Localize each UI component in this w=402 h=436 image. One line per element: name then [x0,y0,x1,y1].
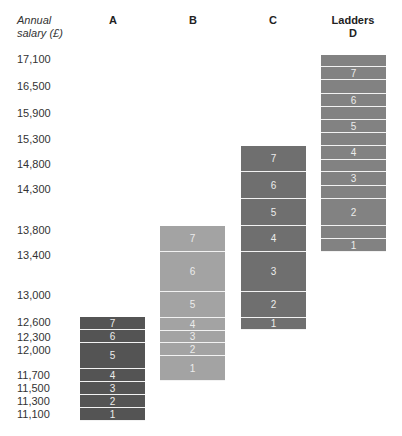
y-tick-label: 11,300 [17,395,50,407]
y-tick-label: 13,400 [17,249,51,261]
y-tick-label: 12,000 [17,344,51,356]
column-header-d: Ladders D [320,14,386,40]
ladder-d-point-intermediate [321,186,386,199]
y-tick-label: 14,800 [17,158,51,170]
ladder-c-point-2: 2 [241,292,306,318]
ladder-d-point-intermediate [321,160,386,172]
ladder-d-point-6: 6 [321,94,386,107]
ladder-c-point-5: 5 [241,199,306,226]
y-tick-label: 12,300 [17,331,51,343]
ladder-c-point-1: 1 [241,318,306,330]
y-tick-label: 12,600 [17,316,51,328]
ladder-d-point-3: 3 [321,172,386,186]
y-tick-label: 14,300 [17,183,51,195]
ladder-b-point-4: 4 [160,318,225,331]
y-tick-label: 17,100 [17,53,51,65]
ladder-a-point-4: 4 [80,369,145,382]
ladder-b: 1234567 [160,226,225,381]
ladder-a-point-1: 1 [80,408,145,421]
ladder-b-point-3: 3 [160,331,225,343]
column-header-b: B [160,14,226,27]
ladder-b-point-5: 5 [160,292,225,318]
ladder-c-point-7: 7 [241,146,306,172]
ladder-b-point-2: 2 [160,343,225,356]
y-tick-label: 13,000 [17,289,51,301]
y-tick-label: 11,100 [17,408,50,420]
ladder-d-point-intermediate [321,133,386,146]
ladder-d-point-4: 4 [321,146,386,160]
column-header-d-title: Ladders [320,14,386,27]
axis-title-line2: salary (£) [17,27,63,40]
ladder-d-point-5: 5 [321,120,386,133]
ladder-b-point-7: 7 [160,226,225,252]
ladder-a-point-2: 2 [80,395,145,408]
ladder-d-point-intermediate [321,80,386,94]
column-header-a-label: A [80,14,146,27]
y-tick-label: 15,900 [17,107,51,119]
column-header-b-label: B [160,14,226,27]
ladder-a-point-7: 7 [80,317,145,330]
column-header-d-label: D [320,27,386,40]
ladder-c: 1234567 [241,146,306,330]
ladder-d-point-7: 7 [321,67,386,80]
ladder-a: 1234567 [80,317,145,421]
ladder-c-point-4: 4 [241,226,306,252]
ladder-d-point-intermediate [321,226,386,239]
column-header-a: A [80,14,146,27]
ladder-c-point-6: 6 [241,172,306,199]
y-tick-label: 13,800 [17,224,51,236]
axis-title: Annual salary (£) [17,14,63,40]
axis-title-line1: Annual [17,14,63,27]
ladder-d-point-2: 2 [321,199,386,226]
y-tick-label: 11,700 [17,369,50,381]
ladder-b-point-6: 6 [160,252,225,292]
ladder-d-point-1: 1 [321,239,386,252]
ladder-a-point-6: 6 [80,330,145,343]
ladder-d-point-intermediate [321,107,386,120]
ladder-d: 1234567 [321,55,386,252]
y-tick-label: 15,300 [17,133,51,145]
y-tick-label: 11,500 [17,382,50,394]
ladder-c-point-3: 3 [241,252,306,292]
column-header-c: C [240,14,306,27]
ladder-d-point-intermediate [321,55,386,67]
y-tick-label: 16,500 [17,80,51,92]
column-header-c-label: C [240,14,306,27]
ladder-b-point-1: 1 [160,356,225,381]
ladder-a-point-5: 5 [80,343,145,369]
ladder-a-point-3: 3 [80,382,145,395]
